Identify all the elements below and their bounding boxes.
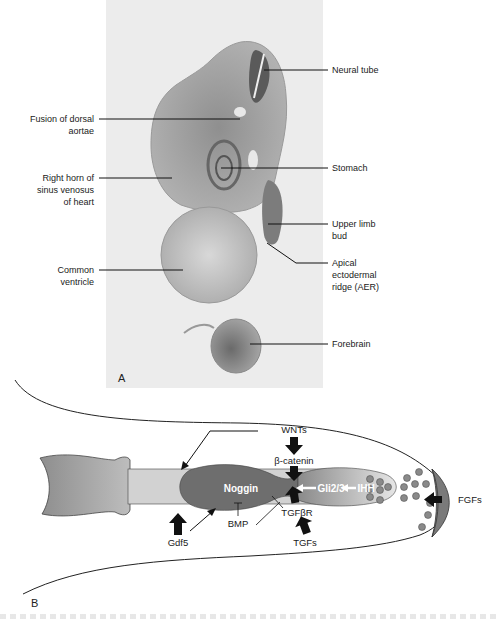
panel-b-letter: B	[31, 597, 38, 609]
label-gdf5: Gdf5	[168, 537, 189, 548]
label-tgfs: TGFs	[293, 537, 317, 548]
limb-signaling-diagram: WNTs β-catenin Noggin Gli2/3 IHH BMP TGF…	[0, 0, 496, 619]
label-ihh: IHH	[357, 483, 374, 494]
label-noggin: Noggin	[224, 483, 258, 494]
label-wnts: WNTs	[281, 424, 307, 435]
bone-shape	[40, 455, 130, 516]
gdf5-up-arrow-icon	[169, 513, 187, 535]
label-beta-catenin: β-catenin	[274, 455, 313, 466]
top-angled-arrow	[185, 431, 258, 466]
label-fgfs: FGFs	[458, 494, 482, 505]
label-bmp: BMP	[228, 518, 249, 529]
label-gli23: Gli2/3	[317, 483, 345, 494]
cropped-caption-text	[0, 614, 496, 619]
label-tgfbr: TGFβR	[281, 507, 312, 518]
wnt-arrow-icon	[285, 437, 303, 455]
